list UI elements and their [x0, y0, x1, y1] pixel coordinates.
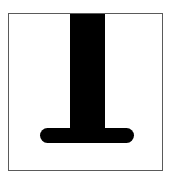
glyph-crossbar [40, 128, 134, 143]
glyph-stem [70, 14, 105, 136]
figure-canvas [0, 0, 173, 179]
inverted-tee-glyph [0, 0, 173, 179]
